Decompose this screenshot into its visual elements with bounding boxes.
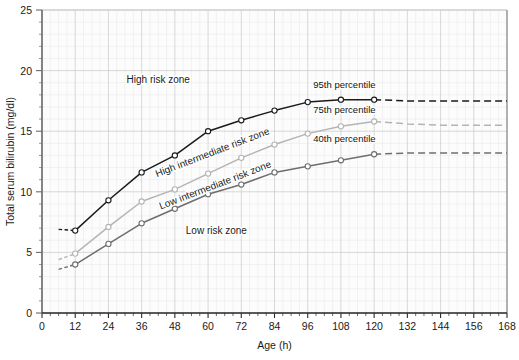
y-axis-tick-label: 15 [20, 125, 32, 137]
series-data-point [338, 97, 343, 102]
series-data-point [305, 100, 310, 105]
series-data-point [139, 221, 144, 226]
series-data-point [372, 97, 377, 102]
y-axis-tick-label: 20 [20, 65, 32, 77]
figure-caption [40, 351, 510, 360]
y-axis-tick-label: 0 [26, 307, 32, 319]
x-axis-tick-label: 84 [269, 320, 281, 332]
series-data-point [239, 155, 244, 160]
x-axis-tick-label: 132 [399, 320, 417, 332]
x-axis-tick-label: 156 [465, 320, 483, 332]
series-data-point [372, 119, 377, 124]
series-data-point [172, 187, 177, 192]
series-data-point [73, 228, 78, 233]
x-axis-tick-label: 24 [103, 320, 115, 332]
x-axis-tick-label: 120 [365, 320, 383, 332]
x-axis-tick-label: 144 [432, 320, 450, 332]
figure-container: 0122436486072849610812013214415616805101… [0, 0, 519, 360]
series-data-point [239, 182, 244, 187]
x-axis-tick-label: 36 [136, 320, 148, 332]
percentile-label: 40th percentile [313, 133, 375, 144]
y-axis-tick-label: 25 [20, 4, 32, 16]
series-data-point [305, 131, 310, 136]
series-data-point [272, 108, 277, 113]
x-axis-tick-label: 60 [202, 320, 214, 332]
zone-annotation-label: High risk zone [127, 74, 191, 85]
series-data-point [272, 170, 277, 175]
series-data-point [272, 142, 277, 147]
series-data-point [172, 153, 177, 158]
series-data-point [106, 241, 111, 246]
x-axis-tick-label: 12 [69, 320, 81, 332]
x-axis-title: Age (h) [257, 339, 291, 351]
series-data-point [205, 129, 210, 134]
series-data-point [305, 164, 310, 169]
series-data-point [338, 124, 343, 129]
series-data-point [239, 118, 244, 123]
y-axis-tick-label: 10 [20, 186, 32, 198]
x-axis-tick-label: 96 [302, 320, 314, 332]
series-data-point [205, 171, 210, 176]
x-axis-tick-label: 108 [332, 320, 350, 332]
bhutani-nomogram-chart: 0122436486072849610812013214415616805101… [0, 0, 519, 360]
series-data-point [106, 198, 111, 203]
series-data-point [73, 251, 78, 256]
series-data-point [139, 199, 144, 204]
series-data-point [139, 170, 144, 175]
percentile-label: 75th percentile [313, 104, 375, 115]
series-data-point [338, 158, 343, 163]
series-data-point [73, 262, 78, 267]
percentile-label: 95th percentile [313, 79, 375, 90]
x-axis-tick-label: 168 [498, 320, 516, 332]
x-axis-tick-label: 0 [39, 320, 45, 332]
series-data-point [106, 224, 111, 229]
x-axis-tick-label: 72 [235, 320, 247, 332]
x-axis-tick-label: 48 [169, 320, 181, 332]
y-axis-tick-label: 5 [26, 246, 32, 258]
y-axis-title: Total serum bilirubin (mg/dl) [4, 97, 16, 226]
zone-annotation-label: Low risk zone [186, 225, 248, 236]
series-data-point [372, 152, 377, 157]
